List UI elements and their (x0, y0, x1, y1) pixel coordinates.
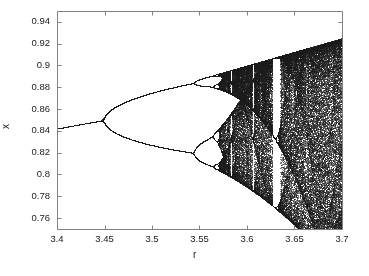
x-tick-label: 3.55 (180, 233, 220, 244)
x-tick-label: 3.7 (322, 233, 362, 244)
y-tick-label: 0.78 (16, 190, 50, 201)
y-tick-label: 0.88 (16, 81, 50, 92)
y-tick-label: 0.82 (16, 146, 50, 157)
y-tick-label: 0.86 (16, 103, 50, 114)
y-tick-label: 0.8 (16, 168, 50, 179)
y-tick-label: 0.9 (16, 59, 50, 70)
x-tick-label: 3.6 (227, 233, 267, 244)
bifurcation-figure: x r 0.760.780.80.820.840.860.880.90.920.… (0, 0, 369, 276)
x-tick-label: 3.45 (85, 233, 125, 244)
y-axis-label: x (0, 124, 11, 129)
y-tick-label: 0.76 (16, 212, 50, 223)
x-tick-label: 3.5 (132, 233, 172, 244)
x-tick-label: 3.65 (275, 233, 315, 244)
y-tick-label: 0.92 (16, 37, 50, 48)
x-tick-label: 3.4 (37, 233, 77, 244)
y-tick-label: 0.84 (16, 124, 50, 135)
x-axis-label: r (193, 249, 196, 260)
y-tick-label: 0.94 (16, 15, 50, 26)
